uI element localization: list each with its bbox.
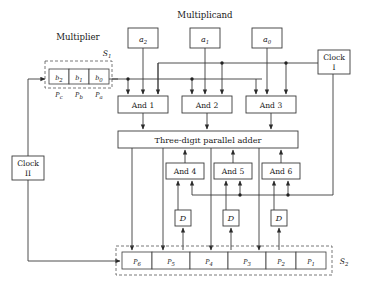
clock-i-line2: I <box>333 63 336 72</box>
clock-ii-box: Clock II <box>12 156 44 180</box>
and-gate-5-label: And 5 <box>221 167 245 176</box>
delay-box-3: D <box>271 210 287 226</box>
multiplicand-box-a2: a2 <box>128 28 158 48</box>
clock-i-box: Clock I <box>318 50 350 74</box>
and-gate-4: And 4 <box>166 163 204 179</box>
multiplicand-heading: Multiplicand <box>177 10 233 20</box>
delay-box-1: D <box>175 210 191 226</box>
and-gate-1-label: And 1 <box>131 101 154 110</box>
clock-i-line1: Clock <box>323 53 345 62</box>
multiplier-block-diagram: a2 a1 a0 Multiplicand Multiplier S1 b2 b… <box>0 0 384 286</box>
and-gate-1: And 1 <box>118 96 168 113</box>
and-gate-6-label: And 6 <box>269 167 293 176</box>
multiplier-pin-pc: Pc <box>54 91 62 100</box>
and-gate-3: And 3 <box>246 96 296 113</box>
multiplier-pin-pa: Pa <box>94 91 103 100</box>
clock-ii-line1: Clock <box>17 159 39 168</box>
delay-box-1-label: D <box>179 214 187 223</box>
and-bottom-to-adder-wires <box>185 150 281 163</box>
multiplier-pin-pb: Pb <box>74 91 83 100</box>
multiplier-heading: Multiplier <box>56 32 100 42</box>
and-gate-3-label: And 3 <box>259 101 283 110</box>
and-gate-2: And 2 <box>182 96 232 113</box>
multiplier-register-s1: b2 b1 b0 Pc Pb Pa <box>45 61 112 100</box>
and-top-to-adder-wires <box>143 113 271 129</box>
figure-canvas: a2 a1 a0 Multiplicand Multiplier S1 b2 b… <box>0 0 384 286</box>
and-gate-4-label: And 4 <box>173 167 197 176</box>
clock-i-top-bus <box>158 61 318 94</box>
multiplicand-wires <box>143 48 267 94</box>
s2-register-label: S2 <box>340 257 349 267</box>
and-gate-6: And 6 <box>262 163 300 179</box>
multiplier-output-bus <box>112 77 262 94</box>
clock-ii-line2: II <box>25 169 31 178</box>
product-to-delay-wires <box>183 228 279 250</box>
parallel-adder: Three-digit parallel adder <box>118 131 298 148</box>
delay-box-2-label: D <box>227 214 235 223</box>
and-gate-5: And 5 <box>214 163 252 179</box>
and-gate-2-label: And 2 <box>195 101 219 110</box>
s1-register-label: S1 <box>103 49 112 59</box>
product-register-s2: P6 P5 P4 P3 P2 P1 S2 <box>116 246 349 275</box>
delay-box-3-label: D <box>275 214 283 223</box>
parallel-adder-label: Three-digit parallel adder <box>154 135 261 145</box>
delay-box-2: D <box>223 210 239 226</box>
multiplicand-box-a1: a1 <box>190 28 220 48</box>
multiplicand-box-a0: a0 <box>252 28 282 48</box>
